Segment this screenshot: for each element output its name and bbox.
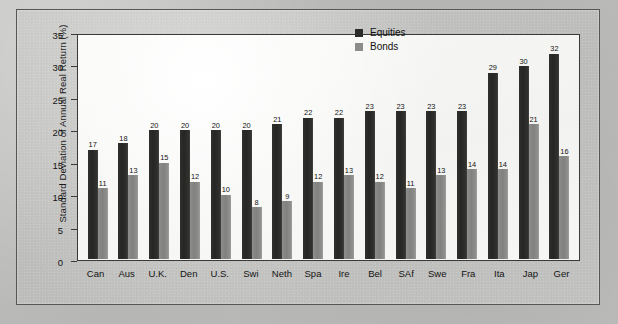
x-axis-label: U.S. <box>204 268 235 279</box>
bar-group: 2212 <box>298 36 329 258</box>
legend-swatch-bonds-icon <box>355 43 363 51</box>
bar-value-label: 32 <box>550 45 558 52</box>
bar-value-label: 21 <box>530 116 538 123</box>
bar-bonds-aus: 13 <box>128 175 138 258</box>
bar-equities-ire: 22 <box>334 118 344 259</box>
bar-value-label: 13 <box>345 167 353 174</box>
bar-bonds-can: 11 <box>98 188 108 259</box>
y-axis-tick: 30 <box>71 66 77 67</box>
bar-value-label: 30 <box>520 58 528 65</box>
bar-equities-can: 17 <box>88 150 98 259</box>
x-axis-labels: CanAusU.K.DenU.S.SwiNethSpaIreBelSAfSweF… <box>77 268 580 279</box>
bar-group: 208 <box>236 36 267 258</box>
bar-equities-neth: 21 <box>272 124 282 259</box>
bar-bonds-swe: 13 <box>436 175 446 258</box>
chart-legend: Equities Bonds <box>355 28 406 52</box>
bar-value-label: 13 <box>129 167 137 174</box>
y-axis-title: Standard Deviation of Annual Real Return… <box>57 9 68 239</box>
x-axis-label: Jap <box>515 268 546 279</box>
bar-value-label: 15 <box>160 154 168 161</box>
x-axis-label: Spa <box>297 268 328 279</box>
bar-group: 2213 <box>329 36 360 258</box>
bar-equities-jap: 30 <box>519 66 529 258</box>
bar-equities-uk: 20 <box>149 130 159 258</box>
bar-value-label: 13 <box>437 167 445 174</box>
y-axis-tick: 5 <box>71 229 77 230</box>
y-axis-tick-label: 25 <box>52 94 63 105</box>
bar-value-label: 12 <box>376 173 384 180</box>
bar-value-label: 14 <box>468 161 476 168</box>
bar-group: 3216 <box>544 36 575 258</box>
bar-value-label: 18 <box>119 135 127 142</box>
x-axis-label: Swi <box>235 268 266 279</box>
bar-value-label: 11 <box>99 180 107 187</box>
legend-swatch-equities-icon <box>355 29 363 37</box>
scanned-page: Standard Deviation of Annual Real Return… <box>0 0 618 324</box>
bar-bonds-swi: 8 <box>252 207 262 258</box>
bar-value-label: 20 <box>150 122 158 129</box>
x-axis-label: U.K. <box>142 268 173 279</box>
y-axis-tick: 15 <box>71 164 77 165</box>
bar-bonds-neth: 9 <box>282 201 292 259</box>
bar-group: 2311 <box>390 36 421 258</box>
bar-value-label: 12 <box>314 173 322 180</box>
bar-group: 3021 <box>513 36 544 258</box>
bar-value-label: 23 <box>458 103 466 110</box>
x-axis-label: Neth <box>266 268 297 279</box>
bar-group: 1711 <box>82 36 113 258</box>
bar-value-label: 10 <box>222 186 230 193</box>
bar-equities-saf: 23 <box>396 111 406 258</box>
y-axis-tick: 25 <box>71 99 77 100</box>
plot-region: 1711181320152012201020821922122213231223… <box>77 34 580 261</box>
bar-group: 1813 <box>113 36 144 258</box>
bar-value-label: 11 <box>407 180 415 187</box>
y-axis-tick: 35 <box>71 34 77 35</box>
x-axis-label: Can <box>80 268 111 279</box>
bar-value-label: 21 <box>273 116 281 123</box>
bars-layer: 1711181320152012201020821922122213231223… <box>79 36 577 258</box>
legend-label-equities: Equities <box>370 28 406 38</box>
bar-bonds-fra: 14 <box>467 169 477 259</box>
x-axis-label: Swe <box>422 268 453 279</box>
y-axis-tick-label: 10 <box>52 192 63 203</box>
bar-equities-den: 20 <box>180 130 190 258</box>
bar-value-label: 14 <box>499 161 507 168</box>
bar-equities-fra: 23 <box>457 111 467 258</box>
bar-equities-spa: 22 <box>303 118 313 259</box>
y-axis-tick-label: 5 <box>58 224 63 235</box>
bar-value-label: 22 <box>304 109 312 116</box>
bar-value-label: 23 <box>366 103 374 110</box>
bar-bonds-ire: 13 <box>344 175 354 258</box>
plot-area: 1711181320152012201020821922122213231223… <box>77 34 580 261</box>
y-axis-tick-label: 35 <box>52 30 63 41</box>
bar-group: 2313 <box>421 36 452 258</box>
bar-equities-swe: 23 <box>426 111 436 258</box>
bar-group: 2312 <box>359 36 390 258</box>
bar-value-label: 12 <box>191 173 199 180</box>
legend-item-bonds: Bonds <box>355 42 406 52</box>
bar-group: 2015 <box>144 36 175 258</box>
bar-value-label: 20 <box>181 122 189 129</box>
x-axis-label: Fra <box>453 268 484 279</box>
bar-group: 2314 <box>452 36 483 258</box>
bar-bonds-jap: 21 <box>529 124 539 259</box>
legend-label-bonds: Bonds <box>370 42 398 52</box>
x-axis-label: SAf <box>391 268 422 279</box>
bar-value-label: 23 <box>396 103 404 110</box>
bar-group: 2010 <box>205 36 236 258</box>
x-axis-label: Bel <box>360 268 391 279</box>
bar-value-label: 9 <box>285 193 289 200</box>
bar-equities-bel: 23 <box>365 111 375 258</box>
bar-equities-aus: 18 <box>118 143 128 258</box>
figure-frame: Standard Deviation of Annual Real Return… <box>16 9 600 305</box>
x-axis-label: Den <box>173 268 204 279</box>
bar-bonds-uk: 15 <box>159 163 169 259</box>
y-axis-tick-label: 20 <box>52 127 63 138</box>
bar-value-label: 22 <box>335 109 343 116</box>
bar-equities-ger: 32 <box>549 54 559 259</box>
bar-value-label: 8 <box>255 199 259 206</box>
bar-bonds-den: 12 <box>190 182 200 259</box>
y-axis-tick-label: 15 <box>52 159 63 170</box>
legend-item-equities: Equities <box>355 28 406 38</box>
y-axis-tick: 20 <box>71 131 77 132</box>
